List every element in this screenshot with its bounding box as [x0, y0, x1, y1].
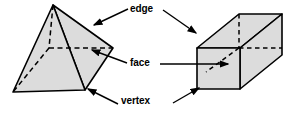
rectangular-prism: [197, 14, 282, 89]
edge-leader-to-pyramid: [94, 9, 128, 25]
square-pyramid: [13, 5, 113, 92]
geometry-diagram: edge face vertex: [0, 0, 290, 121]
vertex-leader-to-prism: [173, 88, 199, 103]
vertex-leader-to-pyramid: [88, 89, 118, 104]
label-vertex: vertex: [121, 96, 150, 106]
label-face: face: [130, 58, 150, 68]
label-edge: edge: [130, 4, 153, 14]
prism-front-face: [197, 48, 240, 89]
edge-leader-to-prism: [163, 10, 196, 33]
